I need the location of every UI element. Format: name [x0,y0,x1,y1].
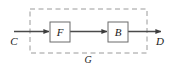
block-f-label: F [56,26,64,38]
block-b-label: B [115,26,122,38]
input-label-c: C [10,35,18,47]
output-label-d: D [155,35,164,47]
group-label-g: G [84,54,91,65]
block-diagram-figure: F B C D G [0,0,174,69]
diagram-canvas: F B C D G [0,0,174,69]
